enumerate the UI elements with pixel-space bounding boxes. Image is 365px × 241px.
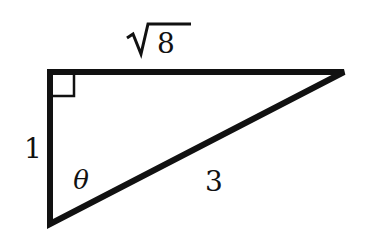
left-side-label: 1 — [24, 132, 42, 165]
right-angle-marker — [50, 72, 74, 96]
top-side-value: 8 — [157, 27, 175, 60]
triangle-diagram: 8 1 θ 3 — [0, 0, 365, 241]
angle-label: θ — [73, 165, 89, 195]
top-side-label: 8 — [127, 24, 191, 60]
hypotenuse-label: 3 — [205, 165, 223, 198]
triangle-shape — [50, 72, 344, 224]
